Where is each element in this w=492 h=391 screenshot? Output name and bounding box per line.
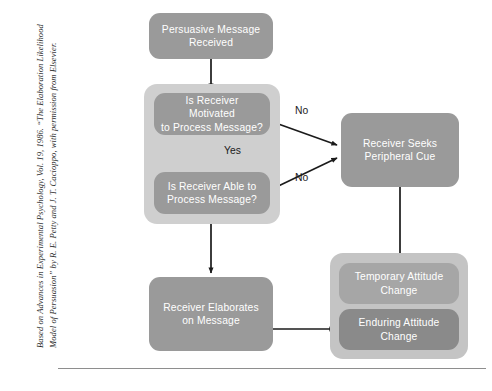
node-enduring-attitude-change: Enduring Attitude Change bbox=[339, 309, 459, 350]
node-is-receiver-motivated: Is Receiver Motivated to Process Message… bbox=[154, 93, 270, 135]
edge-label-no-motivated: No bbox=[295, 105, 308, 116]
node-label: Persuasive Message Received bbox=[155, 23, 267, 50]
node-label: Is Receiver Able to Process Message? bbox=[160, 180, 264, 207]
node-label: Temporary Attitude Change bbox=[348, 270, 451, 297]
source-credit: Based on Advances in Experimental Psycho… bbox=[0, 0, 44, 360]
node-label: Receiver Seeks Peripheral Cue bbox=[356, 137, 444, 164]
node-is-receiver-able: Is Receiver Able to Process Message? bbox=[154, 172, 270, 214]
node-label: Enduring Attitude Change bbox=[352, 316, 447, 343]
node-persuasive-message-received: Persuasive Message Received bbox=[149, 13, 273, 59]
node-label: Receiver Elaborates on Message bbox=[156, 301, 266, 328]
edge-label-no-able: No bbox=[295, 172, 308, 183]
node-temporary-attitude-change: Temporary Attitude Change bbox=[339, 263, 459, 304]
edge-label-yes: Yes bbox=[224, 145, 241, 156]
edge-motivated-to-peripheral bbox=[270, 121, 337, 145]
bottom-divider bbox=[58, 368, 486, 369]
node-receiver-seeks-peripheral-cue: Receiver Seeks Peripheral Cue bbox=[341, 113, 459, 187]
node-label: Is Receiver Motivated to Process Message… bbox=[154, 94, 270, 134]
elaboration-likelihood-flowchart: Persuasive Message Received Is Receiver … bbox=[48, 0, 492, 366]
node-receiver-elaborates-on-message: Receiver Elaborates on Message bbox=[149, 277, 273, 351]
